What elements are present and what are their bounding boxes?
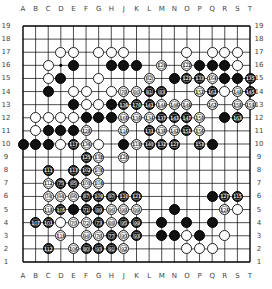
black-stone xyxy=(207,60,218,71)
move-number: 141 xyxy=(145,102,153,108)
black-stone: 97 xyxy=(106,191,117,202)
move-number: 99 xyxy=(134,207,140,213)
move-number: 164 xyxy=(208,75,216,81)
row-label: 11 xyxy=(0,127,12,135)
column-label: D xyxy=(55,272,67,280)
row-label: 1 xyxy=(253,258,265,266)
row-label: 7 xyxy=(253,179,265,187)
black-stone: 117 xyxy=(68,139,79,150)
move-number: 112 xyxy=(44,246,52,252)
white-stone: 162 xyxy=(207,99,218,110)
column-label: F xyxy=(80,5,92,13)
move-number: 128 xyxy=(82,128,90,134)
white-stone: 100 xyxy=(81,178,92,189)
column-label: B xyxy=(30,272,42,280)
column-label: Q xyxy=(206,5,218,13)
move-number: 91 xyxy=(108,246,114,252)
move-number: 131 xyxy=(145,128,153,134)
move-number: 144 xyxy=(158,102,166,108)
white-stone xyxy=(68,47,79,58)
black-stone: 161 xyxy=(207,86,218,97)
black-stone: 71 xyxy=(81,204,92,215)
move-number: 116 xyxy=(120,128,128,134)
move-number: 150 xyxy=(195,115,203,121)
white-stone xyxy=(232,204,243,215)
white-stone: 74 xyxy=(43,191,54,202)
move-number: 99 xyxy=(134,220,140,226)
move-number: 140 xyxy=(145,141,153,147)
black-stone: 115 xyxy=(232,191,243,202)
black-stone xyxy=(43,86,54,97)
white-stone xyxy=(207,47,218,58)
black-stone: 140 xyxy=(144,139,155,150)
move-number: 123 xyxy=(183,75,191,81)
white-stone xyxy=(232,60,243,71)
row-label: 17 xyxy=(253,48,265,56)
move-number: 117 xyxy=(69,141,77,147)
move-number: 80 xyxy=(134,89,140,95)
row-label: 1 xyxy=(0,258,12,266)
row-label: 12 xyxy=(0,114,12,122)
white-stone: 128 xyxy=(81,125,92,136)
column-label: S xyxy=(231,5,243,13)
move-number: 156 xyxy=(195,128,203,134)
move-number: 72 xyxy=(83,220,89,226)
column-label: C xyxy=(42,5,54,13)
row-label: 9 xyxy=(0,153,12,161)
column-label: M xyxy=(156,5,168,13)
row-label: 8 xyxy=(253,166,265,174)
column-label: G xyxy=(93,272,105,280)
move-number: 142 xyxy=(170,128,178,134)
row-label: 15 xyxy=(0,74,12,82)
black-stone: 101 xyxy=(43,217,54,228)
move-number: 138 xyxy=(94,154,102,160)
move-number: 161 xyxy=(208,89,216,95)
move-number: 127 xyxy=(170,141,178,147)
move-number: 129 xyxy=(158,62,166,68)
move-number: 160 xyxy=(120,115,128,121)
black-stone xyxy=(30,139,41,150)
white-stone xyxy=(81,86,92,97)
move-number: 143 xyxy=(170,115,178,121)
move-number: 80 xyxy=(83,246,89,252)
black-stone: 77 xyxy=(106,230,117,241)
move-number: 159 xyxy=(246,102,254,108)
black-stone: 132 xyxy=(156,139,167,150)
black-stone: 102 xyxy=(81,165,92,176)
move-number: 145 xyxy=(246,89,254,95)
row-label: 3 xyxy=(0,232,12,240)
column-label: P xyxy=(194,272,206,280)
move-number: 120 xyxy=(120,154,128,160)
column-label: J xyxy=(118,5,130,13)
move-number: 138 xyxy=(158,128,166,134)
black-stone: 131 xyxy=(144,125,155,136)
row-label: 4 xyxy=(253,219,265,227)
black-stone: 113 xyxy=(68,165,79,176)
black-stone xyxy=(131,60,142,71)
move-number: 134 xyxy=(145,115,153,121)
move-number: 147 xyxy=(183,115,191,121)
move-number: 137 xyxy=(158,115,166,121)
column-label: O xyxy=(181,272,193,280)
white-stone xyxy=(106,47,117,58)
black-stone xyxy=(81,112,92,123)
white-stone: 148 xyxy=(232,86,243,97)
black-stone xyxy=(194,60,205,71)
move-number: 110 xyxy=(120,193,128,199)
black-stone xyxy=(169,204,180,215)
move-number: 86 xyxy=(71,193,77,199)
white-stone: 99 xyxy=(131,204,142,215)
black-stone: 111 xyxy=(43,165,54,176)
move-number: 95 xyxy=(121,220,127,226)
column-label: L xyxy=(143,272,155,280)
column-label: M xyxy=(156,272,168,280)
move-number: 106 xyxy=(69,246,77,252)
move-number: 118 xyxy=(44,207,52,213)
column-label: A xyxy=(17,5,29,13)
column-label: P xyxy=(194,5,206,13)
move-number: 90 xyxy=(121,233,127,239)
white-stone xyxy=(93,139,104,150)
move-number: 151 xyxy=(183,128,191,134)
move-number: 76 xyxy=(96,233,102,239)
black-stone: 87 xyxy=(81,191,92,202)
